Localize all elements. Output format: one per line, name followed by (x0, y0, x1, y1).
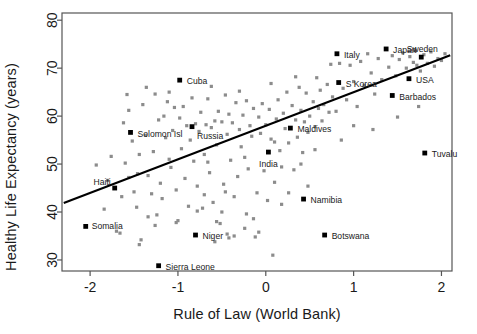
data-point (233, 234, 236, 237)
data-point (203, 153, 206, 156)
data-point (269, 82, 272, 85)
y-tick-label: 80 (44, 12, 60, 28)
highlighted-data-point (190, 124, 195, 129)
data-point (271, 254, 274, 257)
data-point (173, 106, 176, 109)
data-point (222, 183, 225, 186)
data-point (185, 124, 188, 127)
scatter-plot-figure: CubaItalyJapanSwedenUSAS KoreaBarbadosRu… (0, 0, 477, 334)
data-point (387, 66, 390, 69)
axis-tick-labels: -2-1012304050607080 (44, 12, 446, 295)
data-point (408, 55, 411, 58)
data-point (276, 98, 279, 101)
data-point (154, 224, 157, 227)
data-point (132, 190, 135, 193)
data-point (415, 64, 418, 67)
data-point (433, 65, 436, 68)
data-point (150, 192, 153, 195)
point-label: Namibia (311, 195, 343, 205)
data-point (166, 100, 169, 103)
data-point (412, 61, 415, 64)
highlighted-data-point (266, 150, 271, 155)
data-point (122, 121, 125, 124)
data-point (248, 124, 251, 127)
data-point (299, 162, 302, 165)
y-axis-title: Healthy Life Expectancy (years) (0, 0, 22, 334)
data-point (294, 118, 297, 121)
data-point (273, 181, 276, 184)
data-point (190, 96, 193, 99)
x-tick-label: 1 (350, 279, 358, 295)
data-point (196, 209, 199, 212)
plot-canvas: CubaItalyJapanSwedenUSAS KoreaBarbadosRu… (0, 0, 477, 334)
data-point (131, 139, 134, 142)
highlighted-data-point (193, 233, 198, 238)
data-point (308, 115, 311, 118)
data-point (373, 92, 376, 95)
point-label: Italy (344, 50, 360, 60)
data-point (334, 110, 337, 113)
data-point (127, 109, 130, 112)
data-point (231, 121, 234, 124)
data-point (206, 161, 209, 164)
trendline (64, 55, 450, 203)
highlighted-data-point (384, 47, 389, 52)
data-point (210, 126, 213, 129)
data-point (138, 153, 141, 156)
data-point (262, 169, 265, 172)
data-point (234, 101, 237, 104)
highlighted-data-point (156, 263, 161, 268)
data-point (141, 103, 144, 106)
highlighted-data-point (301, 197, 306, 202)
data-point (275, 117, 278, 120)
data-point (273, 140, 276, 143)
data-point (118, 232, 121, 235)
data-point (269, 138, 272, 141)
highlighted-data-point (407, 76, 412, 81)
x-tick-label: -1 (172, 279, 185, 295)
point-label: Niger (203, 231, 224, 241)
data-point (329, 63, 332, 66)
data-point (138, 243, 141, 246)
data-point (220, 210, 223, 213)
data-point (159, 182, 162, 185)
data-point (155, 213, 158, 216)
data-point (211, 201, 214, 204)
data-point (315, 76, 318, 79)
data-point (292, 168, 295, 171)
data-point (282, 112, 285, 115)
data-point (287, 141, 290, 144)
data-point (139, 238, 142, 241)
data-point (268, 108, 271, 111)
data-point (189, 138, 192, 141)
data-point (371, 128, 374, 131)
data-point (312, 100, 315, 103)
data-point (206, 97, 209, 100)
point-label: Sweden (407, 44, 438, 54)
data-point (298, 86, 301, 89)
data-point (356, 105, 359, 108)
data-point (259, 132, 262, 135)
point-label: S Korea (346, 79, 377, 89)
data-point (340, 138, 343, 141)
point-label: Botswana (332, 231, 370, 241)
data-point (175, 221, 178, 224)
data-point (291, 104, 294, 107)
data-point (192, 160, 195, 163)
data-point (203, 193, 206, 196)
data-point (95, 163, 98, 166)
data-point (255, 191, 258, 194)
data-point (345, 98, 348, 101)
data-point (238, 128, 241, 131)
y-tick-label: 40 (44, 204, 60, 220)
point-label: India (259, 159, 278, 169)
y-tick-label: 30 (44, 252, 60, 268)
data-point (236, 175, 239, 178)
data-point (161, 197, 164, 200)
data-point (266, 199, 269, 202)
data-point (120, 195, 123, 198)
data-point (145, 86, 148, 89)
data-point (261, 102, 264, 105)
data-point (320, 119, 323, 122)
data-point (229, 159, 232, 162)
